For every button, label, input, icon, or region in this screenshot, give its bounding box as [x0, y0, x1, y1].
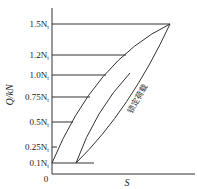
svg-text:0.75Nt: 0.75Nt — [25, 92, 49, 103]
svg-text:0.5Nt: 0.5Nt — [30, 117, 50, 128]
origin-label: 0 — [44, 174, 49, 184]
reloading-curve — [76, 73, 130, 163]
loading-curve — [52, 24, 170, 163]
load-displacement-diagram: 1.5Nt 1.2Nt 1.0Nt 0.75Nt 0.5Nt 0.25Nt 0.… — [0, 0, 197, 189]
svg-text:1.0Nt: 1.0Nt — [30, 70, 50, 81]
y-tick-labels: 1.5Nt 1.2Nt 1.0Nt 0.75Nt 0.5Nt 0.25Nt 0.… — [25, 19, 49, 184]
load-level-lines — [52, 24, 170, 163]
y-axis-label: Q/kN — [4, 83, 15, 105]
x-axis-label: S — [125, 177, 130, 188]
svg-text:0.25Nt: 0.25Nt — [25, 142, 49, 153]
svg-text:0.1Nt: 0.1Nt — [30, 158, 50, 169]
svg-text:1.5Nt: 1.5Nt — [30, 19, 50, 30]
svg-text:1.2Nt: 1.2Nt — [30, 50, 50, 61]
